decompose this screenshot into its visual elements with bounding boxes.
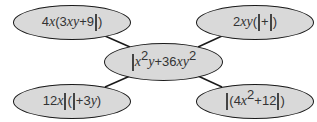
variable: xy — [177, 54, 189, 69]
coefficient: 3 — [83, 93, 90, 108]
connector-bottom-right — [198, 76, 222, 87]
close-paren: ) — [273, 14, 277, 29]
branch-node-bottom-right: (4x2+12) — [196, 84, 314, 119]
open-paren: ( — [67, 93, 71, 108]
connector-bottom-left — [105, 76, 130, 87]
blank-box-icon — [270, 14, 272, 31]
close-paren: ) — [97, 93, 101, 108]
connector-top-left — [105, 36, 130, 47]
open-paren: ( — [253, 14, 257, 29]
branch-node-top-left: 4x(3xy+9) — [13, 5, 131, 40]
coefficient: 4 — [42, 14, 49, 29]
branch-expression-top-left: 4x(3xy+9) — [42, 14, 103, 31]
branch-node-top-right: 2xy(+) — [196, 5, 314, 40]
blank-box-icon — [95, 14, 97, 31]
plus-sign: + — [79, 14, 87, 29]
center-expression: x2y+36xy2 — [131, 54, 196, 71]
blank-box-icon — [73, 93, 75, 110]
variable: x — [57, 93, 63, 108]
plus-sign: + — [261, 14, 269, 29]
exponent: 2 — [189, 48, 196, 63]
coefficient: 12 — [43, 93, 57, 108]
blank-box-icon — [258, 14, 260, 31]
blank-box-icon — [132, 54, 134, 71]
coefficient: 12 — [262, 93, 276, 108]
plus-sign: + — [254, 93, 262, 108]
coefficient: 9 — [87, 14, 94, 29]
plus-sign: + — [154, 54, 162, 69]
blank-box-icon — [226, 93, 228, 110]
branch-node-bottom-left: 12x(+3y) — [13, 84, 131, 119]
branch-expression-top-right: 2xy(+) — [233, 14, 277, 31]
close-paren: ) — [280, 93, 284, 108]
connector-top-right — [198, 36, 222, 47]
branch-expression-bottom-right: (4x2+12) — [225, 93, 284, 110]
coefficient: 36 — [162, 54, 176, 69]
variable: xy — [240, 14, 252, 29]
coefficient: 4 — [234, 93, 241, 108]
center-node: x2y+36xy2 — [104, 43, 223, 81]
branch-expression-bottom-left: 12x(+3y) — [43, 93, 101, 110]
coefficient: 3 — [59, 14, 66, 29]
close-paren: ) — [98, 14, 102, 29]
variable: xy — [67, 14, 79, 29]
